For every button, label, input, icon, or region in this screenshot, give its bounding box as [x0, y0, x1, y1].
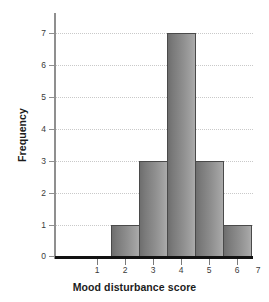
x-tick-label-4: 4	[174, 265, 188, 275]
y-tick-label-2: 2	[30, 189, 46, 198]
gridline-6	[56, 65, 253, 67]
y-tick-6	[49, 65, 55, 66]
x-tick-label-1: 1	[90, 265, 104, 275]
y-tick-label-3: 3	[30, 157, 46, 166]
y-tick-0	[49, 256, 55, 257]
x-axis-title: Mood disturbance score	[0, 281, 269, 293]
y-tick-5	[49, 97, 55, 98]
y-tick-4	[49, 129, 55, 130]
y-tick-label-4: 4	[30, 125, 46, 134]
x-axis-line	[55, 256, 253, 259]
y-tick-label-5: 5	[30, 93, 46, 102]
x-tick-label-3: 3	[146, 265, 160, 275]
bar-score-2	[111, 225, 140, 257]
gridline-4	[56, 129, 253, 131]
y-axis-title: Frequency	[15, 85, 29, 185]
bar-score-6	[223, 225, 252, 257]
y-tick-7	[49, 33, 55, 34]
y-tick-label-0: 0	[30, 252, 46, 261]
x-tick-label-6: 6	[230, 265, 244, 275]
y-tick-label-1: 1	[30, 221, 46, 230]
bar-score-5	[195, 161, 224, 257]
bar-score-4	[167, 33, 196, 257]
y-tick-1	[49, 225, 55, 226]
x-tick-label-5: 5	[202, 265, 216, 275]
y-axis-line	[54, 13, 56, 259]
y-tick-3	[49, 161, 55, 162]
gridline-7	[56, 33, 253, 35]
x-tick-label-2: 2	[118, 265, 132, 275]
y-tick-2	[49, 193, 55, 194]
histogram-chart: 7 6 5 4 3 2 1 0 1 2 3 4 5 6 7 Frequency …	[0, 0, 269, 302]
x-tick-label-7: 7	[251, 265, 265, 275]
y-tick-label-6: 6	[30, 61, 46, 70]
gridline-5	[56, 97, 253, 99]
y-tick-label-7: 7	[30, 29, 46, 38]
bar-score-3	[139, 161, 168, 257]
